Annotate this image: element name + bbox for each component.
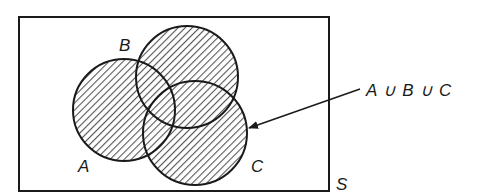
union-shading	[73, 26, 247, 185]
set-c-label: C	[251, 157, 264, 176]
union-annotation-label: A ∪ B ∪ C	[365, 81, 452, 100]
venn-diagram: A B C S A ∪ B ∪ C	[0, 0, 492, 196]
universe-label: S	[336, 175, 348, 194]
set-a-label: A	[77, 157, 89, 176]
annotation-arrow	[249, 89, 360, 128]
set-b-label: B	[119, 36, 130, 55]
